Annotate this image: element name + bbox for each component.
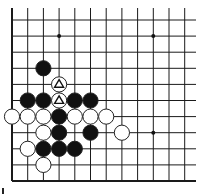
- black-stone-disc: [52, 141, 67, 156]
- white-stone: [36, 125, 51, 140]
- black-stone-disc: [67, 141, 82, 156]
- white-stone-disc: [67, 109, 82, 124]
- black-stone: [52, 141, 67, 156]
- white-stone-disc: [36, 109, 51, 124]
- white-stone: [83, 109, 98, 124]
- star-point: [57, 34, 61, 38]
- black-stone: [67, 93, 82, 108]
- black-stone: [52, 109, 67, 124]
- white-stone: [67, 109, 82, 124]
- white-stone-disc: [36, 125, 51, 140]
- black-stone: [36, 61, 51, 76]
- black-stone: [52, 125, 67, 140]
- black-stone-disc: [83, 93, 98, 108]
- black-stone-disc: [36, 141, 51, 156]
- black-stone-disc: [36, 61, 51, 76]
- white-stone: [36, 157, 51, 172]
- white-stone-disc: [20, 109, 35, 124]
- white-stone-disc: [4, 109, 19, 124]
- white-stone-disc: [36, 157, 51, 172]
- star-point: [151, 34, 155, 38]
- black-stone-disc: [52, 109, 67, 124]
- star-point: [151, 131, 155, 135]
- corner-mark: [2, 188, 4, 194]
- white-stone: [20, 109, 35, 124]
- go-board: [0, 0, 199, 196]
- white-stone-disc: [83, 109, 98, 124]
- black-stone-disc: [83, 125, 98, 140]
- white-stone-disc: [99, 109, 114, 124]
- black-stone-disc: [20, 93, 35, 108]
- black-stone-disc: [52, 125, 67, 140]
- black-stone-disc: [67, 93, 82, 108]
- white-stone: [52, 93, 67, 108]
- white-stone: [36, 109, 51, 124]
- white-stone-disc: [20, 141, 35, 156]
- black-stone: [36, 93, 51, 108]
- white-stone: [4, 109, 19, 124]
- white-stone-disc: [114, 125, 129, 140]
- stones: [4, 61, 129, 173]
- black-stone: [20, 93, 35, 108]
- white-stone: [52, 77, 67, 92]
- black-stone: [67, 141, 82, 156]
- white-stone: [114, 125, 129, 140]
- black-stone: [83, 125, 98, 140]
- black-stone: [83, 93, 98, 108]
- black-stone: [36, 141, 51, 156]
- black-stone-disc: [36, 93, 51, 108]
- white-stone: [99, 109, 114, 124]
- white-stone: [20, 141, 35, 156]
